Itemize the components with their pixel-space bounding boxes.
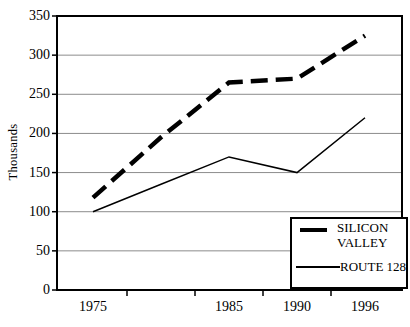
y-tick-label: 300 [8, 47, 50, 63]
x-tick-label: 1996 [335, 299, 395, 315]
legend: SILICON VALLEY ROUTE 128 [290, 217, 408, 289]
y-tick-label: 50 [8, 243, 50, 259]
legend-label-route-128: ROUTE 128 [340, 259, 406, 274]
y-tick-label: 0 [8, 282, 50, 298]
y-tick-label: 200 [8, 125, 50, 141]
x-tick-label: 1985 [199, 299, 259, 315]
y-tick-label: 100 [8, 204, 50, 220]
legend-swatch-route-128-thin-line [296, 266, 340, 268]
y-tick-label: 250 [8, 86, 50, 102]
series-line-silicon-valley [93, 36, 365, 198]
y-tick-label: 150 [8, 165, 50, 181]
x-tick-label: 1990 [267, 299, 327, 315]
y-tick-label: 350 [8, 8, 50, 24]
legend-swatch-silicon-valley-thick-dashed-line [300, 228, 327, 232]
chart-canvas: Thousands 050100150200250300350 19751985… [0, 0, 410, 327]
legend-label-silicon-valley: SILICON VALLEY [337, 221, 403, 250]
series-line-route-128 [93, 118, 365, 212]
x-tick-label: 1975 [63, 299, 123, 315]
